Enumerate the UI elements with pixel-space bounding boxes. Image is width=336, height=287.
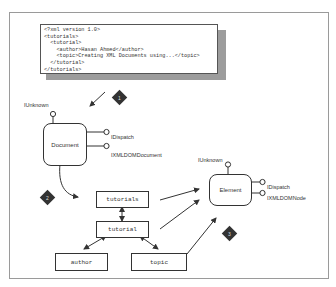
document-ixmldomdocument-label: IXMLDOMDocument — [111, 152, 162, 158]
document-iunknown-label: IUnknown — [24, 102, 48, 108]
node-tutorial-label: tutorial — [108, 226, 137, 233]
element-component: Element — [209, 174, 252, 206]
document-component: Document — [43, 123, 87, 166]
node-topic: topic — [131, 253, 187, 271]
step-2-number: 2 — [42, 192, 53, 203]
step-3-number: 3 — [224, 228, 235, 239]
node-author: author — [55, 253, 108, 271]
node-tutorials-label: tutorials — [106, 196, 138, 203]
document-label: Document — [51, 142, 78, 148]
node-tutorial: tutorial — [96, 221, 149, 238]
node-topic-label: topic — [150, 259, 168, 266]
step-1-number: 1 — [114, 92, 125, 103]
node-author-label: author — [71, 259, 93, 266]
element-label: Element — [219, 187, 241, 193]
element-ixmldomnode-label: IXMLDOMNode — [267, 195, 306, 201]
step-3-diamond: 3 — [222, 226, 238, 242]
step-1-diamond: 1 — [112, 90, 128, 106]
step-2-diamond: 2 — [40, 190, 56, 206]
document-idispatch-label: IDispatch — [111, 134, 134, 140]
element-iunknown-label: IUnknown — [198, 157, 222, 163]
element-idispatch-label: IDispatch — [267, 184, 290, 190]
node-tutorials: tutorials — [96, 191, 149, 208]
